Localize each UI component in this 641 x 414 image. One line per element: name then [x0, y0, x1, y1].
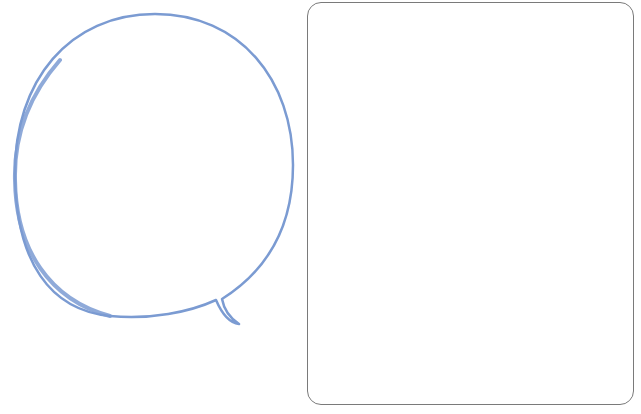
- canvas: [0, 0, 641, 414]
- speech-bubble-icon: [0, 0, 300, 340]
- rounded-rectangle-frame: [307, 2, 634, 405]
